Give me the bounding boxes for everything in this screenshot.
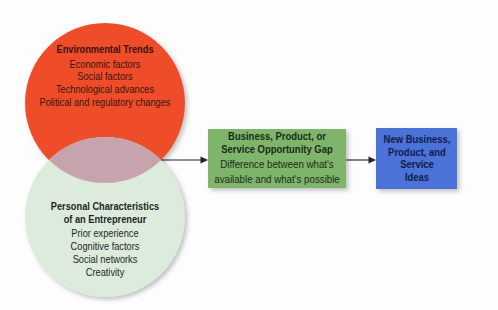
personal-characteristic-item: Prior experience [51,227,159,240]
opportunity-gap-title-line: Business, Product, or [214,130,340,143]
environmental-trend-item: Economic factors [40,58,171,71]
personal-characteristics-text: Personal Characteristics of an Entrepren… [51,200,159,279]
opportunity-recognition-diagram: Environmental Trends Economic factors So… [0,0,498,310]
new-ideas-text: New Business, Product, and Service Ideas [383,133,450,184]
personal-characteristic-item: Cognitive factors [51,240,159,253]
arrow-to-ideas-icon [346,157,376,164]
environmental-trends-text: Environmental Trends Economic factors So… [40,43,171,109]
personal-characteristics-title-line: Personal Characteristics [51,200,159,213]
environmental-trend-item: Social factors [40,70,171,83]
opportunity-gap-text: Business, Product, or Service Opportunit… [214,130,340,187]
opportunity-gap-description: Difference between what's available and … [214,157,340,186]
environmental-trends-title: Environmental Trends [40,43,171,56]
personal-characteristic-item: Social networks [51,253,159,266]
personal-characteristic-item: Creativity [51,266,159,279]
new-ideas-line: New Business, [383,133,450,146]
new-ideas-line: Ideas [383,171,450,184]
opportunity-gap-title-line: Service Opportunity Gap [214,143,340,156]
opportunity-gap-description-line: Difference between what's [214,157,340,172]
opportunity-gap-description-line: available and what's possible [214,172,340,187]
personal-characteristics-title-line: of an Entrepreneur [51,213,159,226]
arrow-to-gap-icon [161,157,208,164]
new-ideas-line: Service [383,158,450,171]
new-ideas-line: Product, and [383,146,450,159]
environmental-trend-item: Political and regulatory changes [40,96,171,109]
personal-characteristics-title: Personal Characteristics of an Entrepren… [51,200,159,226]
environmental-trend-item: Technological advances [40,83,171,96]
